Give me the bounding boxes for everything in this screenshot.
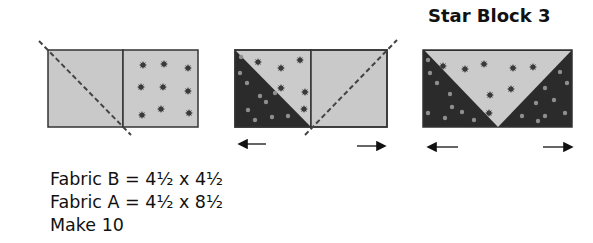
make-count: Make 10 [50,214,223,237]
fabric-a-size: Fabric A = 4½ x 8½ [50,191,223,214]
fabric-b-size: Fabric B = 4½ x 4½ [50,168,223,191]
step-1-unit [39,41,198,135]
cutting-instructions: Fabric B = 4½ x 4½ Fabric A = 4½ x 8½ Ma… [50,168,223,237]
step-2-unit [235,40,397,146]
step-3-unit [423,50,572,147]
